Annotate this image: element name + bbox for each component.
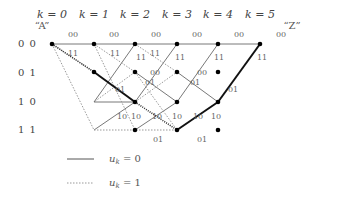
svg-text:01: 01 xyxy=(197,135,207,144)
svg-text:00: 00 xyxy=(192,30,202,39)
svg-text:10: 10 xyxy=(172,112,182,121)
legend-solid-label: uk = 0 xyxy=(109,153,141,166)
svg-text:10: 10 xyxy=(131,112,141,121)
state-label-01: 0 1 xyxy=(18,67,37,78)
state-labels: 0 0 0 1 1 0 1 1 xyxy=(18,38,37,135)
state-label-00: 0 0 xyxy=(18,38,37,49)
time-label-k3: k = 3 xyxy=(162,8,192,21)
svg-text:10: 10 xyxy=(117,112,127,121)
svg-text:10: 10 xyxy=(152,112,162,121)
svg-text:11: 11 xyxy=(136,53,146,62)
start-label: “A” xyxy=(35,20,50,31)
svg-text:01: 01 xyxy=(228,85,238,94)
svg-text:00: 00 xyxy=(109,30,119,39)
legend: uk = 0 uk = 1 xyxy=(67,153,141,190)
svg-text:01: 01 xyxy=(153,135,163,144)
svg-text:11: 11 xyxy=(214,53,224,62)
time-labels: k = 0 k = 1 k = 2 k = 3 k = 4 k = 5 xyxy=(37,8,275,21)
trellis-diagram: k = 0 k = 1 k = 2 k = 3 k = 4 k = 5 “A” … xyxy=(0,0,342,200)
svg-text:00: 00 xyxy=(197,68,207,77)
state-label-11: 1 1 xyxy=(18,124,37,135)
svg-text:11: 11 xyxy=(175,53,185,62)
time-label-k5: k = 5 xyxy=(245,8,275,21)
svg-text:00: 00 xyxy=(234,30,244,39)
time-label-k4: k = 4 xyxy=(203,8,233,21)
legend-dotted-label: uk = 1 xyxy=(109,177,141,190)
svg-text:11: 11 xyxy=(68,49,78,58)
svg-text:00: 00 xyxy=(151,30,161,39)
svg-text:11: 11 xyxy=(110,49,120,58)
svg-text:00: 00 xyxy=(150,68,160,77)
svg-text:11: 11 xyxy=(150,49,160,58)
time-label-k2: k = 2 xyxy=(120,8,150,21)
svg-text:10: 10 xyxy=(193,112,203,121)
svg-text:01: 01 xyxy=(190,78,200,87)
edge-labels: 00 00 00 00 00 00 11 11 11 11 11 11 11 0… xyxy=(68,30,286,144)
time-label-k1: k = 1 xyxy=(79,8,109,21)
svg-text:01: 01 xyxy=(145,78,155,87)
svg-text:10: 10 xyxy=(211,112,221,121)
svg-text:00: 00 xyxy=(276,30,286,39)
state-label-10: 1 0 xyxy=(18,96,37,107)
svg-text:00: 00 xyxy=(68,30,78,39)
svg-text:11: 11 xyxy=(257,53,267,62)
svg-text:01: 01 xyxy=(115,85,125,94)
